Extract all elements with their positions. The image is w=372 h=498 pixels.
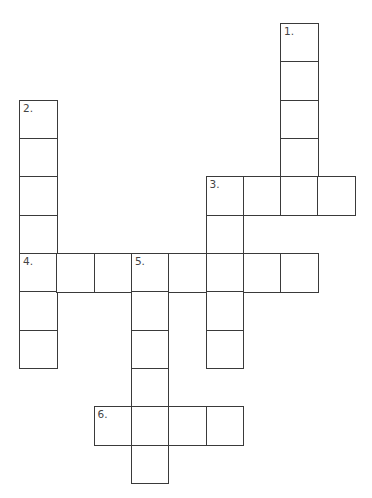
crossword-cell[interactable] bbox=[131, 291, 170, 331]
crossword-cell[interactable] bbox=[206, 253, 245, 293]
clue-number: 3. bbox=[210, 179, 220, 190]
crossword-cell[interactable]: 2. bbox=[19, 100, 58, 140]
crossword-cell[interactable]: 5. bbox=[131, 253, 170, 293]
crossword-cell[interactable] bbox=[131, 330, 170, 370]
clue-number: 5. bbox=[135, 256, 145, 267]
crossword-cell[interactable]: 3. bbox=[206, 176, 245, 216]
crossword-cell[interactable] bbox=[280, 253, 319, 293]
crossword-cell[interactable] bbox=[168, 406, 207, 446]
crossword-cell[interactable] bbox=[243, 253, 282, 293]
crossword-cell[interactable] bbox=[280, 100, 319, 140]
clue-number: 2. bbox=[23, 103, 33, 114]
crossword-grid: 1.2.4.3.5.6. bbox=[0, 0, 372, 498]
crossword-cell[interactable] bbox=[94, 253, 133, 293]
crossword-cell[interactable] bbox=[280, 61, 319, 101]
crossword-cell[interactable] bbox=[19, 330, 58, 370]
crossword-cell[interactable] bbox=[168, 253, 207, 293]
crossword-cell[interactable]: 6. bbox=[94, 406, 133, 446]
crossword-cell[interactable] bbox=[206, 291, 245, 331]
crossword-cell[interactable] bbox=[131, 406, 170, 446]
crossword-cell[interactable] bbox=[317, 176, 356, 216]
crossword-cell[interactable]: 1. bbox=[280, 23, 319, 63]
clue-number: 1. bbox=[284, 26, 294, 37]
crossword-cell[interactable] bbox=[19, 176, 58, 216]
clue-number: 4. bbox=[23, 256, 33, 267]
crossword-cell[interactable] bbox=[131, 368, 170, 408]
crossword-cell[interactable] bbox=[206, 330, 245, 370]
crossword-cell[interactable] bbox=[19, 291, 58, 331]
crossword-cell[interactable] bbox=[56, 253, 95, 293]
crossword-cell[interactable] bbox=[19, 138, 58, 178]
crossword-cell[interactable] bbox=[280, 176, 319, 216]
clue-number: 6. bbox=[98, 409, 108, 420]
crossword-cell[interactable] bbox=[280, 138, 319, 178]
crossword-cell[interactable] bbox=[206, 215, 245, 255]
crossword-cell[interactable] bbox=[206, 406, 245, 446]
crossword-cell[interactable]: 4. bbox=[19, 253, 58, 293]
crossword-cell[interactable] bbox=[131, 445, 170, 485]
crossword-cell[interactable] bbox=[19, 215, 58, 255]
crossword-cell[interactable] bbox=[243, 176, 282, 216]
